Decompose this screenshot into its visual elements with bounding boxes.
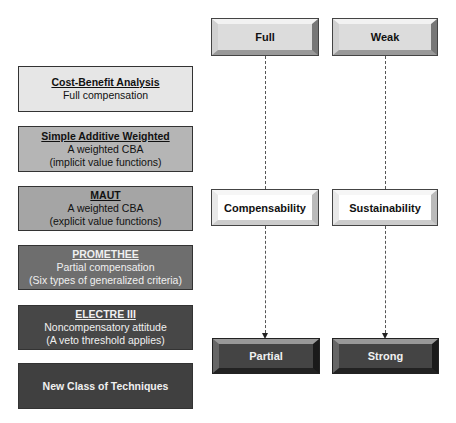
- label-text: Strong: [368, 350, 403, 362]
- label-full: Full: [212, 19, 318, 55]
- connector-line: [385, 56, 386, 189]
- technique-desc: (Six types of generalized criteria): [29, 274, 182, 287]
- technique-title: Simple Additive Weighted: [41, 130, 169, 143]
- technique-cost-benefit-analysis: Cost-Benefit Analysis Full compensation: [18, 66, 193, 112]
- technique-electre-iii: ELECTRE III Noncompensatory attitude (A …: [18, 305, 193, 350]
- technique-title: New Class of Techniques: [43, 380, 169, 393]
- technique-new-class: New Class of Techniques: [18, 363, 193, 409]
- label-weak: Weak: [333, 19, 437, 55]
- technique-desc: A weighted CBA: [68, 202, 144, 215]
- connector-line: [385, 226, 386, 333]
- technique-desc: (implicit value functions): [49, 156, 161, 169]
- technique-promethee: PROMETHEE Partial compensation (Six type…: [18, 245, 193, 290]
- technique-title: MAUT: [90, 189, 120, 202]
- technique-desc: Full compensation: [63, 89, 148, 102]
- technique-title: Cost-Benefit Analysis: [51, 76, 159, 89]
- technique-desc: (explicit value functions): [49, 215, 161, 228]
- connector-line: [265, 226, 266, 333]
- label-strong: Strong: [333, 339, 438, 373]
- technique-title: ELECTRE III: [75, 308, 136, 321]
- technique-desc: Noncompensatory attitude: [44, 321, 167, 334]
- technique-simple-additive-weighted: Simple Additive Weighted A weighted CBA …: [18, 126, 193, 172]
- technique-desc: A weighted CBA: [68, 143, 144, 156]
- label-text: Compensability: [224, 202, 306, 214]
- label-text: Weak: [371, 31, 400, 43]
- connector-line: [265, 56, 266, 189]
- label-text: Partial: [249, 350, 283, 362]
- technique-maut: MAUT A weighted CBA (explicit value func…: [18, 186, 193, 231]
- label-partial: Partial: [213, 339, 319, 373]
- label-text: Full: [255, 31, 275, 43]
- technique-title: PROMETHEE: [72, 248, 139, 261]
- technique-desc: Partial compensation: [56, 261, 154, 274]
- label-compensability: Compensability: [212, 190, 318, 225]
- technique-desc: (A veto threshold applies): [46, 334, 164, 347]
- label-sustainability: Sustainability: [333, 190, 437, 225]
- label-text: Sustainability: [349, 202, 421, 214]
